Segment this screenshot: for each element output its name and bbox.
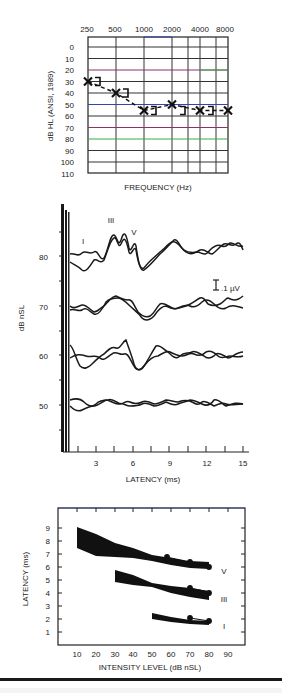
air-conduction-line: [88, 82, 228, 111]
li-x-tick-label: 10: [73, 650, 82, 659]
li-wave-label-I: I: [223, 622, 225, 631]
data-point-icon: [188, 616, 193, 621]
db-label: 30: [65, 78, 74, 87]
caption-divider: [0, 678, 282, 681]
li-y-axis-label: LATENCY (ms): [21, 551, 30, 606]
li-x-tick-label: 60: [167, 650, 176, 659]
figure: 250 500 1000 2000 4000 8000: [0, 0, 282, 693]
li-y-tick-label: 5: [46, 576, 51, 585]
li-wave-label-V: V: [221, 567, 227, 576]
audiogram-hgrid: [88, 47, 228, 162]
data-point-icon: [207, 619, 212, 624]
db-label: 70: [65, 124, 74, 133]
li-x-tick-label: 80: [205, 650, 214, 659]
wave-label-V: V: [131, 228, 137, 237]
abr-x-tick-label: 6: [131, 459, 136, 468]
abr-x-tick-label: 12: [203, 459, 212, 468]
air-conduction-markers: [84, 78, 232, 115]
abr-level-label: 50: [39, 402, 48, 411]
freq-label: 4000: [191, 25, 209, 34]
li-x-tick-label: 30: [111, 650, 120, 659]
audiogram-db-labels: 0 10 20 30 40 50 60 70 80 90 100 110: [61, 43, 75, 179]
trace-60db: [70, 340, 243, 370]
latency-intensity-plot: 9 8 7 6 5 4 3 2 1 LATENCY (ms) 10 20 30 …: [21, 508, 245, 672]
li-frame: [58, 508, 245, 645]
db-label: 60: [65, 112, 74, 121]
db-label: 0: [70, 43, 75, 52]
data-point-icon: [207, 565, 212, 570]
audiogram: 250 500 1000 2000 4000 8000: [46, 25, 234, 192]
db-label: 110: [61, 170, 74, 179]
abr-x-tick-label: 15: [239, 459, 248, 468]
bracket-marker-icon: [180, 107, 185, 115]
li-y-tick-label: 7: [46, 550, 51, 559]
trace-70db: [70, 296, 243, 320]
abr-waveforms: 3 6 9 12 15 LATENCY (ms) 80 70 60 50 dB …: [17, 204, 249, 484]
data-point-icon: [188, 586, 193, 591]
li-y-tick-label: 1: [46, 628, 51, 637]
freq-label: 500: [108, 25, 122, 34]
normal-range-band-III: [115, 570, 209, 600]
scale-bar: .1 µV: [213, 280, 241, 293]
wave-label-I: I: [82, 237, 84, 246]
db-label: 100: [61, 158, 75, 167]
data-point-icon: [207, 591, 212, 596]
db-label: 10: [65, 55, 74, 64]
audiogram-x-axis-label: FREQUENCY (Hz): [124, 183, 192, 192]
db-label: 40: [65, 89, 74, 98]
li-x-tick-label: 50: [148, 650, 157, 659]
li-y-tick-label: 4: [46, 589, 51, 598]
li-x-axis-label: INTENSITY LEVEL (dB nSL): [99, 663, 202, 672]
abr-x-tick-label: 3: [94, 459, 99, 468]
db-label: 50: [65, 101, 74, 110]
abr-level-label: 60: [39, 352, 48, 361]
data-point-icon: [165, 555, 170, 560]
abr-y-axis-label: dB nSL: [17, 304, 26, 331]
li-x-tick-label: 20: [92, 650, 101, 659]
abr-level-label: 70: [39, 303, 48, 312]
wave-label-III: III: [108, 216, 115, 225]
db-label: 90: [65, 147, 74, 156]
normal-range-band-I: [152, 613, 209, 625]
li-y-tick-label: 2: [46, 615, 51, 624]
audiogram-frequency-labels: 250 500 1000 2000 4000 8000: [80, 25, 234, 34]
trace-50db: [70, 399, 243, 411]
data-point-icon: [188, 560, 193, 565]
freq-label: 250: [80, 25, 94, 34]
freq-label: 2000: [163, 25, 181, 34]
li-y-tick-label: 9: [46, 524, 51, 533]
abr-level-label: 80: [39, 253, 48, 262]
db-label: 80: [65, 135, 74, 144]
freq-label: 8000: [216, 25, 234, 34]
li-x-tick-label: 90: [224, 650, 233, 659]
scale-bar-label: .1 µV: [221, 284, 241, 293]
li-y-tick-label: 8: [46, 537, 51, 546]
li-wave-label-III: III: [221, 595, 228, 604]
bracket-marker-icon: [151, 107, 156, 115]
abr-x-axis-label: LATENCY (ms): [126, 475, 181, 484]
db-label: 20: [65, 66, 74, 75]
li-x-tick-label: 70: [186, 650, 195, 659]
caption-cut-off: [0, 688, 282, 693]
li-x-tick-label: 40: [129, 650, 138, 659]
li-y-tick-label: 6: [46, 563, 51, 572]
trace-80db: [70, 234, 243, 271]
freq-label: 1000: [135, 25, 153, 34]
abr-x-tick-label: 9: [168, 459, 173, 468]
audiogram-y-axis-label: dB HL (ANSI, 1989): [46, 70, 55, 141]
li-y-tick-label: 3: [46, 602, 51, 611]
abr-x-ticks: [78, 446, 243, 452]
